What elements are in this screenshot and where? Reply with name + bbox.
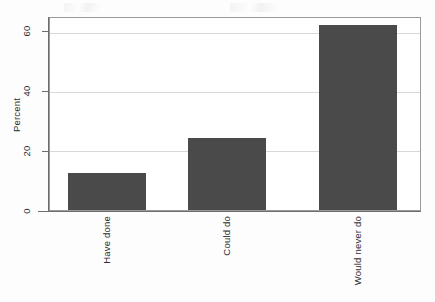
y-tick-label-20: 20: [16, 141, 36, 161]
x-tick-label-text: Could do: [221, 216, 232, 256]
bar-chart-figure: Percent 0 20 40 60 Have done Could do Wo…: [0, 0, 435, 302]
x-tick-label-text: Would never do: [352, 216, 363, 285]
scan-artifact-icon: [64, 3, 106, 12]
x-tick-label-have-done: Have done: [98, 216, 114, 296]
x-axis-line: [38, 211, 421, 212]
y-tick-label-0: 0: [16, 201, 36, 221]
bar-could-do: [188, 138, 266, 210]
scan-artifact-icon: [230, 3, 286, 12]
y-tick-label-text: 0: [21, 208, 32, 213]
y-tick-label-text: 40: [21, 86, 32, 97]
bar-have-done: [68, 173, 146, 210]
y-tick-label-40: 40: [16, 81, 36, 101]
x-tick-label-would-never-do: Would never do: [349, 216, 365, 296]
x-tick-label-text: Have done: [101, 216, 112, 264]
y-tick-label-text: 20: [21, 146, 32, 157]
y-axis-title-label: Percent: [11, 98, 22, 132]
bar-would-never-do: [319, 25, 397, 210]
x-tick-label-could-do: Could do: [218, 216, 234, 296]
y-tick-label-text: 60: [21, 26, 32, 37]
y-tick-label-60: 60: [16, 21, 36, 41]
plot-area: [49, 17, 421, 211]
